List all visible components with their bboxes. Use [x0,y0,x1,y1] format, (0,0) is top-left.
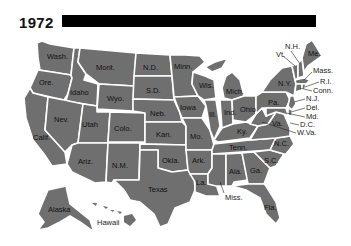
label-mt: Mont. [96,63,115,72]
label-ri: R.I. [320,77,332,86]
label-id: Idaho [70,88,89,97]
label-ut: Utah [82,120,98,129]
label-va: Va. [272,119,283,128]
label-nj: N.J. [306,94,319,103]
label-ga: Ga. [250,166,262,175]
label-ak: Alaska [48,205,71,214]
label-ar: Ark. [192,156,205,165]
label-pa: Pa. [268,98,279,107]
state-mi-upper[interactable] [205,58,228,72]
us-state-map: Wash. Ore. Calif. Idaho Nev. Mont. Wyo. … [0,0,351,246]
label-tn: Tenn. [229,143,247,152]
label-ks: Kan. [156,130,171,139]
label-in: Ind. [224,108,237,117]
label-sd: S.D. [146,86,161,95]
label-az: Ariz. [78,157,93,166]
label-ms: Miss. [225,193,243,202]
label-nv: Nev. [54,115,69,124]
label-de: Del. [306,103,319,112]
label-ma: Mass. [313,66,333,75]
label-nc: N.C. [274,139,289,148]
label-ok: Okla. [162,156,180,165]
label-al: Ala. [229,167,242,176]
label-nd: N.D. [143,63,158,72]
label-ny: N.Y. [278,79,292,88]
label-co: Colo. [114,124,132,133]
label-tx: Texas [148,185,168,194]
label-mo: Mo. [190,132,203,141]
label-or: Ore. [39,78,54,87]
state-ma[interactable] [295,78,310,84]
label-hi: Hawaii [97,218,120,227]
label-sc: S.C. [264,156,279,165]
label-il: Ill. [209,110,217,119]
label-oh: Ohio [240,105,256,114]
label-mn: Minn. [174,62,192,71]
label-nh: N.H. [285,42,300,51]
label-wi: Wis. [199,81,214,90]
label-nm: N.M. [112,161,128,170]
label-la: La. [196,178,206,187]
label-dc: D.C. [300,120,315,129]
label-wv: W.Va. [297,128,316,137]
label-mi: Mich. [226,87,244,96]
label-wy: Wyo. [107,94,124,103]
label-me: Me. [308,49,321,58]
label-ky: Ky. [237,127,247,136]
label-ia: Iowa [180,103,197,112]
label-wa: Wash. [47,52,68,61]
label-fl: Fla. [264,203,277,212]
label-vt: Vt. [276,50,285,59]
label-ca: Calif. [33,133,50,142]
label-ne: Neb. [150,109,166,118]
